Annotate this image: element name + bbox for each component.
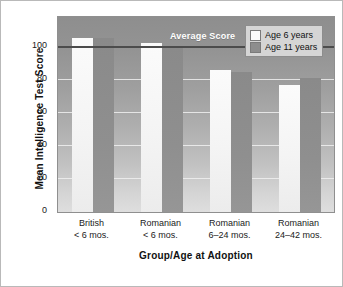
legend-label: Age 6 years bbox=[265, 30, 313, 40]
x-tick-line1: Romanian bbox=[140, 218, 181, 228]
x-tick-line1: Romanian bbox=[209, 218, 250, 228]
legend-item-1[interactable]: Age 6 years bbox=[250, 29, 317, 41]
bar-group-3-series-1 bbox=[210, 70, 231, 212]
x-tick-line2: < 6 mos. bbox=[126, 229, 195, 241]
y-axis-tick-labels: 020406080100 bbox=[1, 16, 53, 213]
legend-item-2[interactable]: Age 11 years bbox=[250, 41, 317, 53]
bar-group-4-series-1 bbox=[279, 85, 300, 212]
legend-swatch-dark bbox=[250, 42, 261, 53]
x-tick-line1: British bbox=[79, 218, 104, 228]
y-tick-label-20: 20 bbox=[37, 172, 47, 182]
x-axis-title: Group/Age at Adoption bbox=[57, 250, 335, 261]
x-tick-line2: 24–42 mos. bbox=[264, 229, 333, 241]
bar-group-2-series-1 bbox=[141, 43, 162, 212]
y-tick-label-40: 40 bbox=[37, 139, 47, 149]
bar-group-3-series-2 bbox=[231, 72, 252, 212]
y-tick-label-100: 100 bbox=[32, 40, 47, 50]
x-tick-label-4: Romanian24–42 mos. bbox=[264, 217, 333, 241]
legend: Age 6 yearsAge 11 years bbox=[245, 25, 323, 57]
x-tick-line2: 6–24 mos. bbox=[195, 229, 264, 241]
bar-group-1-series-2 bbox=[93, 38, 114, 212]
bar-group-4-series-2 bbox=[300, 78, 321, 212]
x-tick-line1: Romanian bbox=[278, 218, 319, 228]
x-tick-line2: < 6 mos. bbox=[57, 229, 126, 241]
legend-swatch-light bbox=[250, 30, 261, 41]
bar-group-1-series-1 bbox=[72, 38, 93, 212]
y-tick-label-80: 80 bbox=[37, 73, 47, 83]
bar-group-2-series-2 bbox=[162, 47, 183, 212]
x-tick-label-3: Romanian6–24 mos. bbox=[195, 217, 264, 241]
x-tick-label-2: Romanian< 6 mos. bbox=[126, 217, 195, 241]
x-tick-label-1: British< 6 mos. bbox=[57, 217, 126, 241]
average-score-label: Average Score bbox=[170, 31, 235, 41]
figure-container: Mean Intelligence Test Score 02040608010… bbox=[0, 0, 343, 287]
y-tick-label-60: 60 bbox=[37, 106, 47, 116]
y-tick-label-0: 0 bbox=[42, 205, 47, 215]
legend-label: Age 11 years bbox=[265, 42, 317, 52]
